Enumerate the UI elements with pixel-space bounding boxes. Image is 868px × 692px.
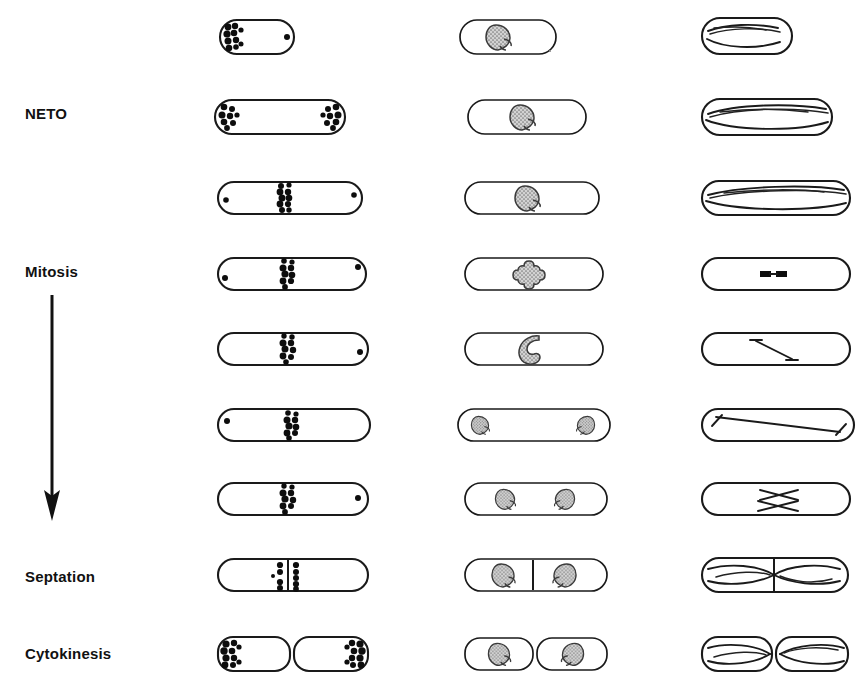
actin-cell-row-5 (216, 407, 372, 443)
figure-canvas: NETO Mitosis Septation Cytokinesis (0, 0, 868, 692)
actin-cell-row-4 (216, 331, 370, 367)
nucleus-cell-row-8 (463, 634, 613, 674)
actin-cell-row-8 (216, 634, 372, 674)
nucleus-cell-row-0 (458, 18, 560, 56)
nucleus-cell-row-3 (463, 256, 605, 292)
actin-cell-row-6 (216, 481, 370, 517)
microtubule-cell-row-6 (700, 481, 854, 517)
actin-cell-row-2 (216, 180, 364, 216)
nucleus-cell-row-2 (463, 180, 601, 216)
nucleus-cell-row-4 (463, 331, 605, 367)
nucleus-cell-row-5 (456, 407, 612, 443)
nucleus-cell-row-7 (463, 557, 609, 593)
microtubule-cell-row-4 (700, 331, 854, 367)
stage-label-mitosis: Mitosis (25, 263, 78, 280)
microtubule-cell-row-2 (700, 178, 854, 218)
microtubule-cell-row-8 (700, 633, 854, 675)
actin-cell-row-0 (218, 18, 296, 56)
stage-label-septation: Septation (25, 568, 95, 585)
cell-cycle-direction-arrow (36, 292, 70, 528)
microtubule-cell-row-1 (700, 96, 836, 138)
stage-label-neto: NETO (25, 105, 67, 122)
microtubule-cell-row-0 (700, 15, 796, 57)
microtubule-cell-row-5 (700, 407, 856, 443)
stage-label-cytokinesis: Cytokinesis (25, 645, 111, 662)
microtubule-cell-row-3 (700, 256, 854, 292)
nucleus-cell-row-1 (466, 98, 588, 136)
actin-cell-row-7 (216, 557, 370, 593)
nucleus-cell-row-6 (463, 481, 609, 517)
microtubule-cell-row-7 (700, 555, 852, 595)
actin-cell-row-1 (213, 98, 347, 136)
actin-cell-row-3 (216, 256, 368, 292)
